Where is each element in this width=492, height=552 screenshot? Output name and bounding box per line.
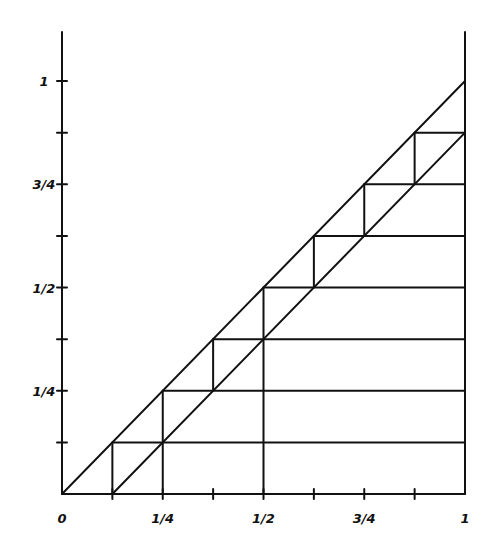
y-axis-label: 3/4: [33, 177, 56, 192]
x-axis-label: 3/4: [353, 511, 376, 526]
y-axis-label: 1: [39, 74, 48, 89]
staircase-diagram: [0, 0, 492, 552]
lower-diagonal-line: [112, 133, 465, 494]
y-axis-label: 1/4: [33, 383, 56, 398]
x-axis-label: 1: [460, 511, 469, 526]
x-axis-label: 1/4: [151, 511, 174, 526]
x-axis-label: 1/2: [252, 511, 275, 526]
x-axis-label: 0: [57, 511, 66, 526]
y-axis-label: 1/2: [33, 280, 56, 295]
